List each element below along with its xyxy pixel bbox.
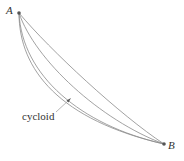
point-a-marker (17, 11, 21, 15)
cycloid-curves-diagram: A B cycloid (0, 0, 184, 161)
curve-path-3 (19, 13, 164, 144)
point-a-label: A (5, 4, 13, 16)
cycloid-curve-path (19, 13, 164, 144)
point-b-marker (162, 142, 166, 146)
point-b-label: B (168, 139, 175, 151)
cycloid-label: cycloid (22, 110, 55, 122)
curve-path-4 (19, 13, 164, 144)
curve-path-1 (19, 13, 164, 144)
annotation-leader-line (56, 100, 69, 112)
